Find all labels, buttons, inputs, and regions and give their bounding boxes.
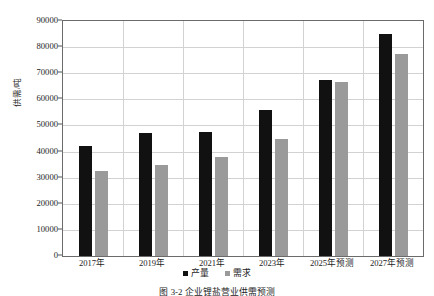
bar-demand [155, 165, 168, 256]
x-axis-tick-label: 2027年预测 [370, 257, 414, 269]
y-axis-tick-label: 70000 [4, 68, 58, 77]
y-axis-tick-label: 80000 [4, 42, 58, 51]
y-axis-tick-label: 10000 [4, 225, 58, 234]
y-axis-tick-labels: 0100002000030000400005000060000700008000… [0, 0, 58, 296]
legend-item-label: 需求 [233, 269, 251, 278]
legend-swatch-black-icon [183, 271, 188, 276]
x-axis-tick-label: 2017年 [79, 257, 105, 269]
figure-caption: 图 3-2 企业锂盐营业供需预测 [0, 286, 434, 296]
bar-demand [215, 157, 228, 256]
y-axis-tick-label: 40000 [4, 146, 58, 155]
x-axis-tick-label: 2025年预测 [310, 257, 354, 269]
bar-production [199, 132, 212, 256]
y-axis-tick-label: 90000 [4, 16, 58, 25]
y-axis-tick-label: 50000 [4, 120, 58, 129]
bar-demand [335, 82, 348, 256]
bar-production [319, 80, 332, 256]
bar-demand [275, 139, 288, 257]
bar-production [79, 146, 92, 256]
bar-production [139, 133, 152, 256]
legend-swatch-gray-icon [225, 271, 230, 276]
x-axis-tick-label: 2019年 [139, 257, 165, 269]
y-axis-tick-label: 20000 [4, 198, 58, 207]
y-axis-tick-label: 60000 [4, 94, 58, 103]
bar-demand [395, 54, 408, 256]
legend-item: 需求 [225, 269, 251, 278]
bar-demand [95, 171, 108, 256]
legend-item: 产量 [183, 269, 209, 278]
y-axis-tick-label: 0 [4, 251, 58, 260]
plot-area [62, 20, 424, 257]
bar-production [379, 34, 392, 256]
bar-series-layer [63, 21, 423, 256]
bar-production [259, 110, 272, 256]
bar-chart-figure: 供需/吨 01000020000300004000050000600007000… [0, 0, 434, 296]
chart-legend: 产量需求 [0, 269, 434, 278]
x-axis-tick-label: 2023年 [259, 257, 285, 269]
legend-item-label: 产量 [191, 269, 209, 278]
y-axis-tick-label: 30000 [4, 172, 58, 181]
